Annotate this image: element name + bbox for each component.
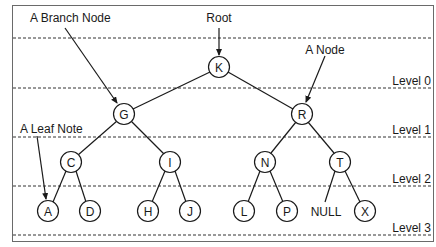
svg-text:J: J [187,205,193,219]
svg-text:N: N [261,156,270,170]
node-d: D [80,201,101,222]
a-node-label: A Node [305,43,345,57]
level-0-label: Level 0 [392,74,431,88]
binary-tree-diagram: Level 0 Level 1 Level 2 Level 3 A Branch… [0,0,436,247]
svg-text:I: I [168,156,171,170]
svg-text:A: A [44,205,52,219]
svg-text:L: L [241,205,248,219]
node-g: G [114,104,135,125]
branch-node-label: A Branch Node [30,11,111,25]
svg-text:X: X [361,205,369,219]
svg-text:D: D [86,205,95,219]
level-1-label: Level 1 [392,123,431,137]
node-h: H [138,201,159,222]
svg-text:R: R [298,108,307,122]
node-p: P [277,201,298,222]
svg-text:G: G [119,108,128,122]
node-t: T [330,152,351,173]
level-2-label: Level 2 [392,172,431,186]
node-r: R [292,104,313,125]
svg-text:T: T [336,156,344,170]
null-label: NULL [311,205,342,219]
level-3-label: Level 3 [392,221,431,235]
node-n: N [255,152,276,173]
node-c: C [61,152,82,173]
node-x: X [355,201,376,222]
leaf-node-label: A Leaf Note [20,122,83,136]
svg-text:C: C [67,156,76,170]
node-k: K [209,57,230,78]
svg-text:K: K [215,61,223,75]
node-a: A [38,201,59,222]
svg-text:H: H [144,205,153,219]
node-l: L [234,201,255,222]
node-j: J [180,201,201,222]
node-i: I [160,152,181,173]
svg-text:P: P [283,205,291,219]
root-label: Root [206,11,232,25]
